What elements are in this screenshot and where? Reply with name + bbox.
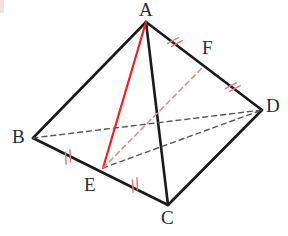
vertex-label-f: F [202, 38, 213, 57]
edges-layer [33, 22, 262, 205]
edge-ED [103, 110, 262, 168]
vertex-label-e: E [84, 175, 96, 194]
vertex-label-b: B [12, 127, 25, 146]
vertex-label-c: C [161, 208, 174, 227]
tetrahedron-diagram [0, 0, 288, 236]
edge-BC [33, 138, 168, 205]
edge-CD [168, 110, 262, 205]
vertex-label-a: A [139, 0, 153, 19]
vertex-label-d: D [266, 96, 280, 115]
geometry-figure: ABCDEF [0, 0, 288, 236]
